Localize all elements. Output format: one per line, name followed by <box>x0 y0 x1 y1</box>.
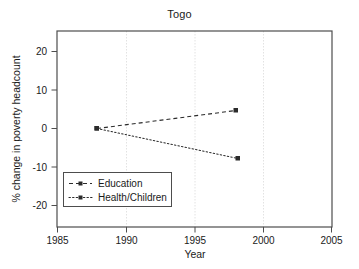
y-tick-label: 0 <box>41 123 47 134</box>
x-tick-label: 1985 <box>46 235 69 246</box>
series-education-marker <box>234 108 239 113</box>
y-axis-ticks <box>52 52 58 206</box>
x-axis-ticks <box>58 227 332 233</box>
legend-label-education: Education <box>98 178 142 189</box>
x-axis-label: Year <box>184 248 206 260</box>
legend-marker-health-children <box>79 196 83 200</box>
x-tick-label: 2005 <box>320 235 343 246</box>
chart-figure: Togo 20 10 0 -10 -20 <box>0 0 359 269</box>
legend-label-health-children: Health/Children <box>98 192 167 203</box>
y-axis-tick-labels: 20 10 0 -10 -20 <box>33 46 48 211</box>
series-health-children-marker <box>95 126 100 131</box>
x-tick-label: 1995 <box>184 235 207 246</box>
x-tick-label: 1990 <box>115 235 138 246</box>
y-tick-label: 10 <box>36 85 48 96</box>
x-tick-label: 2000 <box>252 235 275 246</box>
y-axis-label: % change in poverty headcount <box>10 55 22 202</box>
series-health-children-marker <box>236 156 241 161</box>
y-tick-label: 20 <box>36 46 48 57</box>
legend-marker-education <box>79 182 83 186</box>
y-tick-label: -10 <box>33 162 48 173</box>
y-tick-label: -20 <box>33 200 48 211</box>
plot-area: 20 10 0 -10 -20 1985 1990 1995 2000 2005… <box>0 0 359 269</box>
legend[interactable]: Education Health/Children <box>64 173 172 207</box>
x-axis-tick-labels: 1985 1990 1995 2000 2005 <box>46 235 343 246</box>
